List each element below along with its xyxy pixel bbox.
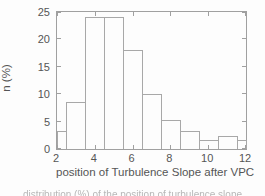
- x-tick-mark: [95, 12, 96, 16]
- histogram-bar: [104, 17, 124, 149]
- y-tick-mark: [242, 12, 246, 13]
- x-tick-mark: [170, 145, 171, 149]
- y-tick-label: 10: [12, 88, 50, 100]
- y-tick-label: 20: [12, 33, 50, 45]
- y-tick-label: 15: [12, 61, 50, 73]
- x-axis-label: position of Turbulence Slope after VPC: [56, 166, 245, 178]
- x-tick-label: 12: [230, 152, 260, 164]
- x-tick-label: 4: [79, 152, 109, 164]
- y-tick-mark: [242, 148, 246, 149]
- x-tick-mark: [208, 12, 209, 16]
- histogram-bar: [123, 50, 143, 149]
- y-tick-mark: [242, 66, 246, 67]
- y-tick-mark: [57, 66, 61, 67]
- histogram-bar: [66, 102, 86, 149]
- y-tick-label: 25: [12, 6, 50, 18]
- histogram-bar: [142, 94, 162, 149]
- x-tick-label: 6: [117, 152, 147, 164]
- y-tick-mark: [57, 121, 61, 122]
- plot-area: [56, 11, 247, 150]
- x-tick-label: 8: [154, 152, 184, 164]
- histogram-bar: [180, 131, 200, 149]
- x-tick-mark: [133, 12, 134, 16]
- y-tick-mark: [57, 12, 61, 13]
- x-tick-mark: [133, 145, 134, 149]
- y-tick-mark: [57, 148, 61, 149]
- x-tick-mark: [208, 145, 209, 149]
- histogram-bar: [85, 17, 105, 149]
- x-tick-mark: [95, 145, 96, 149]
- y-tick-label: 5: [12, 116, 50, 128]
- histogram-bar: [218, 136, 238, 149]
- y-tick-mark: [242, 38, 246, 39]
- x-tick-label: 10: [192, 152, 222, 164]
- y-tick-mark: [242, 93, 246, 94]
- x-tick-mark: [170, 12, 171, 16]
- y-tick-label: 0: [12, 143, 50, 155]
- y-tick-mark: [242, 121, 246, 122]
- y-axis-label: n (%): [0, 48, 12, 108]
- histogram-figure: n (%) 24681012 0510152025 position of Tu…: [0, 0, 265, 196]
- clipped-caption-text: distribution (%) of the position of turb…: [0, 189, 265, 196]
- y-tick-mark: [57, 38, 61, 39]
- y-tick-mark: [57, 93, 61, 94]
